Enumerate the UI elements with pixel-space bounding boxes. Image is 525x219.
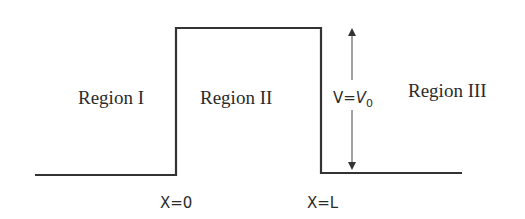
potential-label-subscript: 0 — [366, 97, 373, 110]
region-1-label: Region I — [78, 87, 144, 108]
region-2-label: Region II — [200, 87, 272, 108]
boundary-x0-label: X=0 — [160, 194, 192, 212]
region-3-label: Region III — [408, 80, 487, 101]
potential-label-prefix: V= — [333, 89, 356, 107]
boundary-xL-label: X=L — [307, 194, 339, 212]
potential-label: V=V0 — [333, 89, 373, 110]
potential-barrier-diagram: Region I Region II Region III V=V0 X=0 X… — [0, 0, 525, 219]
